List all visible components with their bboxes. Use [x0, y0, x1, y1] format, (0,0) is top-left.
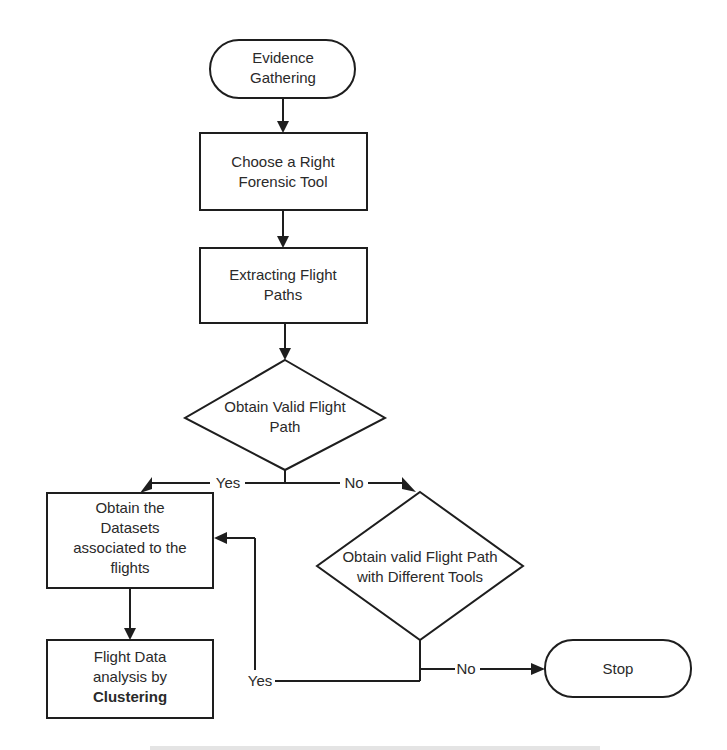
- arrowhead: [140, 477, 152, 493]
- node-text: Gathering: [250, 69, 316, 86]
- node-stop: Stop: [545, 640, 691, 697]
- node-text: Forensic Tool: [239, 173, 328, 190]
- node-text: Path: [270, 418, 301, 435]
- node-text: with Different Tools: [356, 568, 483, 585]
- node-analysis: Flight Data analysis by Clustering: [47, 640, 213, 718]
- edge-label-no: No: [344, 474, 363, 491]
- arrowhead: [402, 477, 416, 492]
- node-text: Evidence: [252, 49, 314, 66]
- arrowhead: [214, 532, 227, 544]
- node-text: Clustering: [93, 688, 167, 705]
- edge-label-yes: Yes: [248, 672, 272, 689]
- node-obtain-datasets: Obtain the Datasets associated to the fl…: [47, 493, 213, 588]
- node-different-tools-decision: Obtain valid Flight Path with Different …: [317, 492, 523, 640]
- arrowhead: [124, 628, 136, 640]
- node-evidence-gathering: Evidence Gathering: [210, 40, 355, 98]
- node-text: analysis by: [93, 668, 168, 685]
- figure-caption-truncated: [150, 746, 600, 750]
- decision-diamond: [185, 360, 385, 470]
- arrowhead: [279, 348, 291, 360]
- arrowhead: [277, 236, 289, 248]
- node-text: Obtain valid Flight Path: [342, 548, 497, 565]
- node-choose-tool: Choose a Right Forensic Tool: [200, 133, 367, 210]
- node-text: Stop: [603, 660, 634, 677]
- node-text: flights: [110, 559, 149, 576]
- node-valid-path-decision: Obtain Valid Flight Path: [185, 360, 385, 470]
- flowchart: Evidence Gathering Choose a Right Forens…: [0, 0, 727, 750]
- node-text: Obtain the: [95, 499, 164, 516]
- decision-diamond: [317, 492, 523, 640]
- caption-glyph-tops: [150, 746, 600, 750]
- process-box: [200, 133, 367, 210]
- node-text: Extracting Flight: [229, 266, 337, 283]
- node-text: Obtain Valid Flight: [224, 398, 346, 415]
- edge-label-no: No: [456, 660, 475, 677]
- node-text: Paths: [264, 286, 302, 303]
- node-text: Choose a Right: [231, 153, 335, 170]
- edge-label-yes: Yes: [216, 474, 240, 491]
- arrowhead: [531, 663, 545, 675]
- arrowhead: [277, 121, 289, 133]
- node-text: Datasets: [100, 519, 159, 536]
- node-extract-paths: Extracting Flight Paths: [200, 248, 367, 323]
- node-text: Flight Data: [94, 648, 167, 665]
- node-text: associated to the: [73, 539, 186, 556]
